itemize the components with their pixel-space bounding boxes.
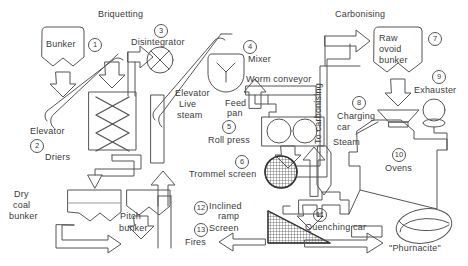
elevator-left-label: Elevator [30,126,65,136]
mixer-shape [208,54,244,92]
callout-9: 9 [432,70,446,84]
exhauster-shape [423,99,447,150]
callout-6: 6 [235,155,249,169]
trommel-screen-shape [265,156,297,188]
dry-coal-bunker-shape [68,190,121,221]
riser-duct [158,196,171,248]
roll-press-label: Roll press [208,135,250,145]
driers-out-duct [88,155,141,188]
trommel-screen-label: Trommel screen [189,169,256,179]
callout-13: 13 [194,223,208,237]
live-label: Live [179,99,196,109]
callout-1: 1 [88,38,102,52]
disintegrator-shape [147,47,173,73]
dry-label: Dry [14,189,29,199]
raw-ovoid-in-arrow [325,30,370,52]
callout-2: 2 [30,139,44,153]
to-carbonising-up-arrow [303,147,325,196]
inclined-label: Inclined [209,201,242,211]
callout-8: 8 [352,96,366,110]
tall-duct [151,95,164,163]
disintegrator-label: Disintegrator [131,37,185,47]
callout-10: 10 [392,148,406,162]
pitch-label: Pitch [120,211,141,221]
section-title-carbonising: Carbonising [335,9,385,19]
car-label: car [337,122,350,132]
ramp-label: ramp [218,211,239,221]
callout-11: 11 [313,208,327,222]
worm-conveyor-label: Worm conveyor [246,74,311,84]
screen-label: Screen [209,223,239,233]
worm-conveyor-shape [246,86,316,95]
bottom-conveyor-arrow [56,225,121,253]
steam-label: steam [177,110,203,120]
raw-label: Raw [379,33,398,43]
callout-7: 7 [428,32,442,46]
mixer-label: Mixer [248,54,271,64]
exhauster-label: Exhauster [414,85,456,95]
dry-coal-bunker-label: bunker [9,211,38,221]
process-flow-diagram: Briquetting Carbonising Bunker 1 Elevato… [0,0,468,266]
bunker-label: Bunker [46,39,76,49]
callout-5: 5 [222,120,236,134]
disintegrator-in-arrow [128,46,153,68]
to-carbonising-label: To carbonising [313,83,323,144]
phurnacite-shape [394,205,455,247]
elevator-right-label: Elevator [175,88,210,98]
raw-ovoid-bunker-label: bunker [379,55,408,65]
fires-label: Fires [185,237,206,247]
callout-4: 4 [243,40,257,54]
coal-label: coal [13,200,30,210]
feed-label: Feed [225,98,246,108]
callout-12: 12 [194,201,208,215]
phurnacite-label: "Phurnacite" [389,243,441,253]
driers-label: Driers [45,152,70,162]
callout-3: 3 [154,24,168,38]
pitch-bunker-label: bunker [119,223,148,233]
driers-in-arrow [99,62,125,88]
driers-box [89,92,136,151]
bunker-out-arrow [50,72,76,97]
feed-pan-duct [255,95,316,117]
quenching-car-label: Quenching car [305,222,366,232]
disintegrator-feed-duct [128,52,135,96]
steam2-label: Steam [333,137,360,147]
fires-arrow [219,233,265,251]
trommel-out-duct [297,152,327,177]
raw-ovoid-out-arrow [385,79,411,106]
ovens-label: Ovens [385,163,412,173]
ovens-discharge [349,190,360,214]
charging-car-shape [378,110,419,127]
pan-label: pan [227,108,243,118]
ovoid-label: ovoid [379,44,402,54]
section-title-briquetting: Briquetting [98,9,143,19]
charging-label: Charging [337,111,375,121]
